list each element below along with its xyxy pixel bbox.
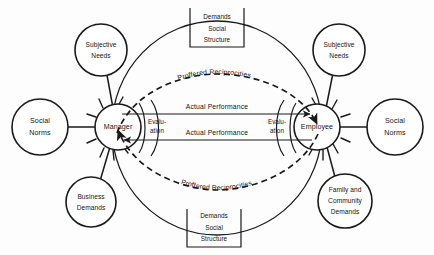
label-actual-performance-bottom: Actual Performance: [186, 129, 248, 137]
top-box-line3: Structure: [204, 36, 230, 44]
subjective-needs-left-line2: Needs: [91, 52, 110, 60]
label-proffered-top: Proffered Reciprocities: [177, 68, 253, 81]
top-box-line1: Demands: [203, 13, 231, 21]
social-norms-right-line2: Norms: [384, 129, 405, 137]
social-norms-right-line1: Social: [385, 117, 405, 125]
family-community-line2: Community: [328, 197, 362, 205]
top-box-line2: Social: [208, 25, 226, 33]
bottom-box-line3: Structure: [201, 235, 227, 243]
subjective-needs-left-line1: Subjective: [86, 41, 117, 49]
subjective-needs-right-line1: Subjective: [324, 41, 355, 49]
social-norms-right-circle[interactable]: [367, 99, 423, 155]
subjective-needs-left-circle[interactable]: [75, 24, 127, 76]
manager-label: Manager: [104, 123, 133, 131]
flow-proffered-reciprocities-bottom: [118, 130, 318, 190]
evaluation-right-line1: Evalu-: [268, 118, 286, 125]
bottom-box-line1: Demands: [200, 212, 228, 220]
bottom-box-line2: Social: [205, 224, 223, 232]
family-community-line1: Family and: [329, 186, 362, 194]
label-actual-performance-top: Actual Performance: [186, 103, 248, 111]
family-community-line3: Demands: [331, 208, 360, 216]
business-demands-circle[interactable]: [66, 177, 116, 227]
evaluation-left-line1: Evalu-: [148, 118, 166, 125]
social-norms-left-circle[interactable]: [12, 99, 68, 155]
business-demands-line2: Demands: [77, 204, 106, 212]
evaluation-left-line2: ation: [150, 127, 164, 134]
label-proffered-bottom: Proffered Reciprocities: [180, 178, 253, 192]
employee-label: Employee: [301, 123, 333, 131]
social-norms-left-line1: Social: [30, 117, 50, 125]
business-demands-line1: Business: [77, 193, 104, 201]
subjective-needs-right-circle[interactable]: [313, 24, 365, 76]
social-norms-left-line2: Norms: [29, 129, 50, 137]
subjective-needs-right-line2: Needs: [329, 52, 348, 60]
evaluation-right-line2: ation: [270, 127, 284, 134]
diagram-canvas: Proffered Reciprocities Proffered Recipr…: [0, 0, 434, 255]
